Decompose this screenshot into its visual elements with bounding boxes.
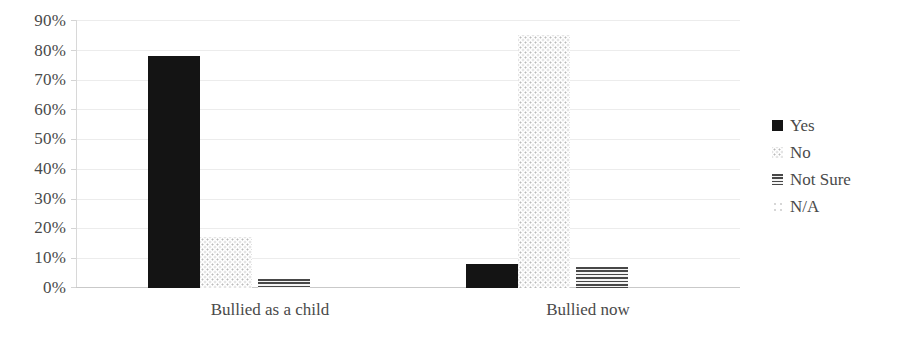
legend-label-no: No bbox=[790, 144, 811, 162]
y-tick-label-90: 90% bbox=[0, 12, 66, 29]
legend-item-no[interactable]: No bbox=[772, 139, 897, 166]
y-tick-label-70: 70% bbox=[0, 71, 66, 88]
legend-swatch-no-icon bbox=[772, 147, 783, 158]
bar-bullied-now-no bbox=[518, 35, 570, 288]
bar-bullied-as-a-child-no bbox=[200, 237, 252, 288]
legend-item-not-sure[interactable]: Not Sure bbox=[772, 166, 897, 193]
x-category-label-1: Bullied now bbox=[468, 300, 708, 320]
legend-swatch-na-icon bbox=[772, 201, 783, 212]
legend-label-not-sure: Not Sure bbox=[790, 171, 851, 189]
legend-swatch-not-sure-icon bbox=[772, 174, 783, 185]
x-category-label-0: Bullied as a child bbox=[150, 300, 390, 320]
plot-area bbox=[76, 20, 740, 288]
y-axis: 90% 80% 70% 60% 50% 40% 30% 20% 10% 0% bbox=[0, 0, 72, 342]
y-tick-label-80: 80% bbox=[0, 42, 66, 59]
y-tick-label-40: 40% bbox=[0, 160, 66, 177]
y-tick-label-50: 50% bbox=[0, 130, 66, 147]
gridline-80 bbox=[76, 50, 740, 51]
legend-label-na: N/A bbox=[790, 198, 819, 216]
y-tick-label-20: 20% bbox=[0, 219, 66, 236]
legend-item-na[interactable]: N/A bbox=[772, 193, 897, 220]
legend-label-yes: Yes bbox=[790, 117, 815, 135]
y-tick-label-60: 60% bbox=[0, 101, 66, 118]
legend-item-yes[interactable]: Yes bbox=[772, 112, 897, 139]
legend: Yes No Not Sure N/A bbox=[772, 112, 897, 220]
gridline-90 bbox=[76, 20, 740, 21]
bar-bullied-as-a-child-not-sure bbox=[258, 279, 310, 288]
legend-swatch-yes-icon bbox=[772, 120, 783, 131]
y-axis-line bbox=[76, 20, 77, 288]
y-tick-label-30: 30% bbox=[0, 190, 66, 207]
bar-bullied-now-not-sure bbox=[576, 267, 628, 288]
bar-bullied-as-a-child-yes bbox=[148, 56, 200, 288]
bar-chart: 90% 80% 70% 60% 50% 40% 30% 20% 10% 0% bbox=[0, 0, 901, 342]
bar-bullied-now-yes bbox=[466, 264, 518, 288]
y-tick-label-10: 10% bbox=[0, 249, 66, 266]
y-tick-label-0: 0% bbox=[0, 279, 66, 296]
